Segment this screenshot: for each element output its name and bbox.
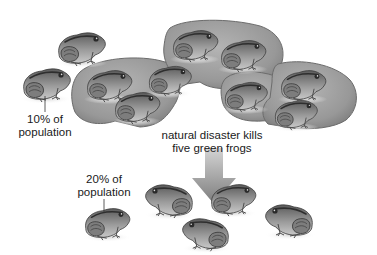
frog-icon (144, 185, 196, 220)
label-ten-percent: 10% of population (14, 113, 76, 139)
frog-icon (20, 69, 72, 104)
label-disaster-event: natural disaster kills five green frogs (142, 129, 282, 155)
label-line: 20% of (73, 173, 135, 186)
label-line: 10% of (14, 113, 76, 126)
frog-icon (55, 33, 107, 68)
frog-icon (82, 209, 131, 242)
label-twenty-percent: 20% of population (73, 173, 135, 199)
bottleneck-diagram: 10% of population natural disaster kills… (0, 0, 377, 255)
label-line: five green frogs (142, 142, 282, 155)
frog-icon (264, 205, 316, 240)
label-line: natural disaster kills (142, 129, 282, 142)
label-line: population (14, 126, 76, 139)
frog-icon (181, 219, 232, 253)
label-line: population (73, 186, 135, 199)
